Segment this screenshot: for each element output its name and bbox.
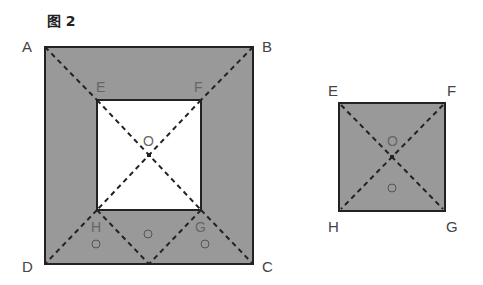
label-g: G xyxy=(195,219,206,235)
center-point xyxy=(147,153,151,157)
label-f: F xyxy=(447,82,456,99)
label-h: H xyxy=(328,218,339,235)
right-figure: E F G H O xyxy=(328,82,458,235)
label-a: A xyxy=(22,38,32,55)
label-d: D xyxy=(22,258,33,275)
label-f: F xyxy=(194,79,203,95)
label-c: C xyxy=(262,258,273,275)
label-g: G xyxy=(446,218,458,235)
label-e: E xyxy=(96,79,105,95)
label-b: B xyxy=(262,38,272,55)
left-figure: A B C D E F G H O xyxy=(22,38,273,275)
label-e: E xyxy=(328,82,338,99)
geometry-diagram: A B C D E F G H O E F G H O xyxy=(0,0,483,285)
label-o: O xyxy=(143,133,154,149)
center-point xyxy=(390,155,394,159)
label-h: H xyxy=(91,219,101,235)
label-o: O xyxy=(387,133,398,149)
